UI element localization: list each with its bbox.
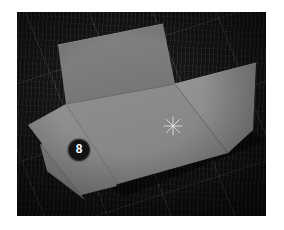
screenshot-viewport: 8 bbox=[0, 0, 284, 230]
scene-vignette bbox=[17, 12, 266, 216]
step-number-badge[interactable]: 8 bbox=[68, 139, 90, 161]
render-scene: 8 bbox=[17, 12, 266, 216]
sparkle-marker-icon bbox=[163, 116, 183, 136]
